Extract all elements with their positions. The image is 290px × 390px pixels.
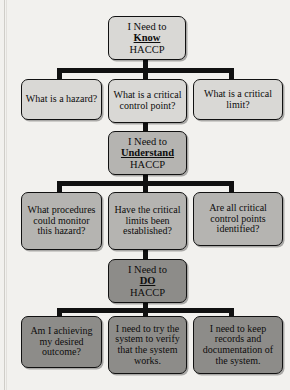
node-what-is-a-critical-limit: What is a critical limit?: [193, 79, 283, 120]
node-try-system-to-verify-label: I need to try the system to verify that …: [112, 324, 183, 366]
node-what-is-a-hazard-label: What is a hazard?: [25, 94, 98, 105]
header-understand-keyword: Understand: [121, 147, 174, 158]
header-box-understand: I Need to Understand HACCP: [108, 131, 187, 175]
header-understand-line3: HACCP: [130, 159, 165, 170]
header-do-line1: I Need to: [128, 264, 167, 275]
node-am-i-achieving-my-desired-outcome-label: Am I achieving my desired outcome?: [25, 326, 98, 358]
header-know-line1: I Need to: [127, 21, 166, 32]
header-box-know: I Need to Know HACCP: [108, 16, 186, 60]
header-do-keyword: DO: [140, 275, 156, 286]
node-keep-records-and-documentation: I need to keep records and documentation…: [193, 316, 283, 374]
haccp-flowchart: I Need to Know HACCP What is a hazard? W…: [0, 0, 290, 390]
header-box-do: I Need to DO HACCP: [108, 259, 187, 303]
node-keep-records-and-documentation-label: I need to keep records and documentation…: [197, 324, 279, 366]
node-what-is-a-critical-limit-label: What is a critical limit?: [197, 89, 279, 110]
node-am-i-achieving-my-desired-outcome: Am I achieving my desired outcome?: [21, 316, 102, 368]
node-what-is-a-critical-control-point: What is a critical control point?: [108, 79, 187, 123]
header-know-keyword: Know: [134, 32, 161, 43]
node-have-the-critical-limits-been-established: Have the critical limits been establishe…: [108, 192, 187, 250]
node-what-is-a-hazard: What is a hazard?: [21, 79, 102, 120]
node-what-procedures-could-monitor-this-hazard: What procedures could monitor this hazar…: [21, 192, 102, 250]
header-know-line3: HACCP: [129, 44, 164, 55]
header-do-line3: HACCP: [130, 287, 165, 298]
header-understand-line1: I Need to: [128, 136, 167, 147]
node-are-all-critical-control-points-identified: Are all critical control points identifi…: [193, 192, 283, 246]
node-what-is-a-critical-control-point-label: What is a critical control point?: [112, 90, 183, 111]
node-are-all-critical-control-points-identified-label: Are all critical control points identifi…: [197, 203, 279, 235]
node-try-system-to-verify: I need to try the system to verify that …: [108, 316, 187, 374]
node-what-procedures-could-monitor-this-hazard-label: What procedures could monitor this hazar…: [25, 205, 98, 237]
node-have-the-critical-limits-been-established-label: Have the critical limits been establishe…: [112, 205, 183, 237]
